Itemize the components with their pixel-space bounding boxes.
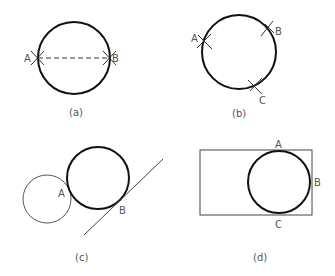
point-label-c: C bbox=[275, 219, 282, 230]
circle-d bbox=[248, 151, 310, 213]
point-label-a: A bbox=[275, 139, 282, 150]
panel-d: A B C (d) bbox=[200, 139, 321, 263]
caption-a: (a) bbox=[69, 107, 83, 118]
small-circle bbox=[23, 175, 71, 223]
point-label-b: B bbox=[275, 26, 282, 37]
panel-a: A B (a) bbox=[24, 22, 119, 118]
panel-b: A B C (b) bbox=[191, 15, 282, 119]
rectangle bbox=[200, 150, 312, 215]
caption-c: (c) bbox=[75, 252, 88, 263]
tangent-line bbox=[84, 159, 163, 235]
cross-mark-c bbox=[248, 78, 262, 94]
point-label-a: A bbox=[24, 53, 31, 64]
point-label-b: B bbox=[314, 177, 321, 188]
circle-c bbox=[67, 147, 129, 209]
caption-d: (d) bbox=[253, 252, 267, 263]
point-label-a: A bbox=[58, 188, 65, 199]
point-label-b: B bbox=[119, 205, 126, 216]
geometry-figure: A B (a) A B C (b) A B (c) A B C (d) bbox=[0, 0, 335, 276]
point-label-a: A bbox=[191, 33, 198, 44]
caption-b: (b) bbox=[232, 108, 246, 119]
point-label-c: C bbox=[259, 95, 266, 106]
point-label-b: B bbox=[112, 53, 119, 64]
panel-c: A B (c) bbox=[23, 147, 163, 263]
circle-b bbox=[202, 15, 276, 89]
